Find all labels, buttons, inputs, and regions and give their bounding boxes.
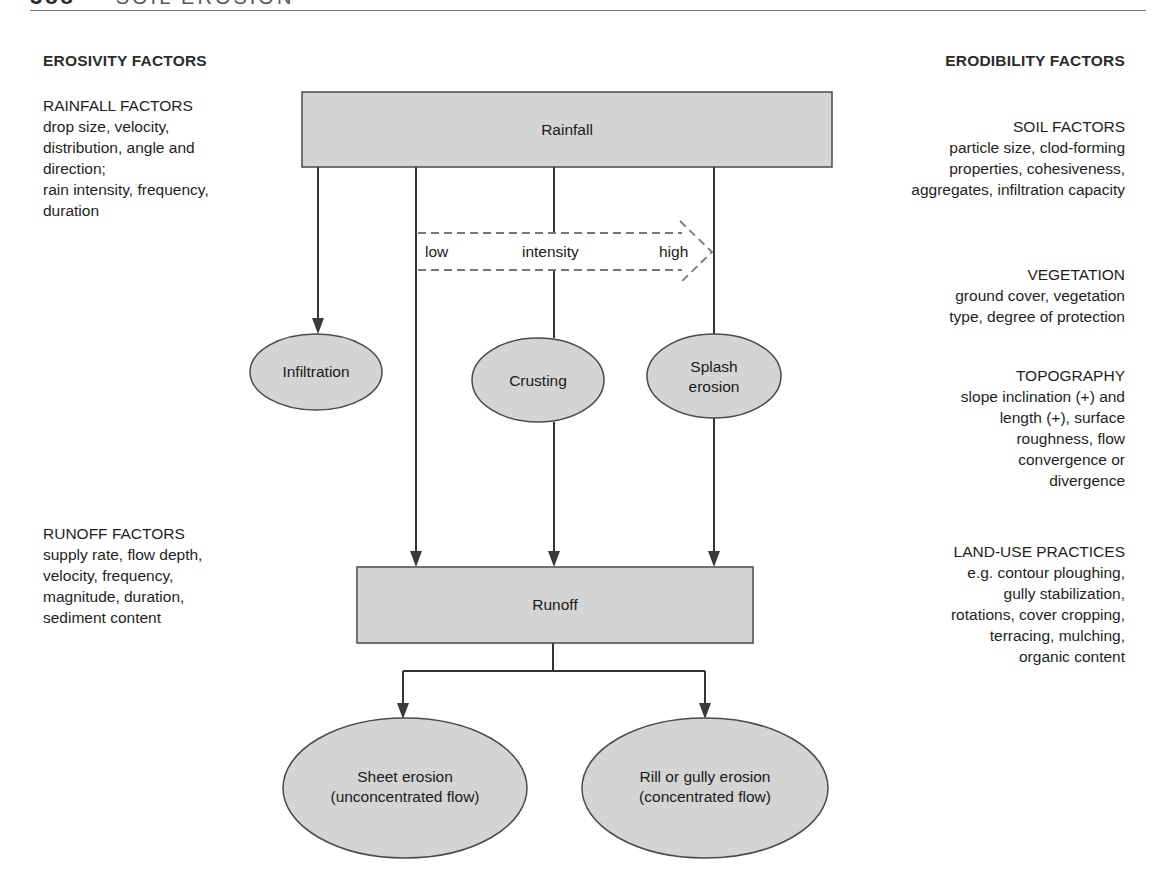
soil-factors-line: aggregates, infiltration capacity xyxy=(911,179,1125,200)
topography-line: roughness, flow xyxy=(961,428,1125,449)
rainfall-factors-line: distribution, angle and xyxy=(43,137,209,158)
erodibility-factors-heading: ERODIBILITY FACTORS xyxy=(945,52,1125,70)
runoff-factors-line: velocity, frequency, xyxy=(43,565,202,586)
land-use-practices-block: LAND-USE PRACTICES e.g. contour ploughin… xyxy=(951,541,1125,667)
arrow-to-sheet-icon xyxy=(397,703,409,719)
topography-block: TOPOGRAPHY slope inclination (+) and len… xyxy=(961,365,1125,491)
runoff-factors-line: sediment content xyxy=(43,607,202,628)
erosivity-factors-heading: EROSIVITY FACTORS xyxy=(43,52,207,70)
land-use-line: organic content xyxy=(951,646,1125,667)
soil-factors-line: particle size, clod-forming xyxy=(911,137,1125,158)
splash-erosion-line-2: erosion xyxy=(689,377,740,397)
land-use-line: rotations, cover cropping, xyxy=(951,604,1125,625)
soil-factors-line: properties, cohesiveness, xyxy=(911,158,1125,179)
vegetation-block: VEGETATION ground cover, vegetation type… xyxy=(949,264,1125,327)
rainfall-factors-line: drop size, velocity, xyxy=(43,116,209,137)
rainfall-factors-line: rain intensity, frequency, xyxy=(43,179,209,200)
intensity-low-label: low xyxy=(425,243,448,261)
intensity-high-label: high xyxy=(659,243,688,261)
soil-factors-title: SOIL FACTORS xyxy=(911,116,1125,137)
infiltration-label: Infiltration xyxy=(282,362,349,382)
topography-line: convergence or xyxy=(961,449,1125,470)
sheet-erosion-label: Sheet erosion (unconcentrated flow) xyxy=(330,767,479,807)
land-use-line: e.g. contour ploughing, xyxy=(951,562,1125,583)
crusting-label: Crusting xyxy=(509,371,567,391)
runoff-factors-line: supply rate, flow depth, xyxy=(43,544,202,565)
topography-line: divergence xyxy=(961,470,1125,491)
land-use-practices-title: LAND-USE PRACTICES xyxy=(951,541,1125,562)
intensity-label: intensity xyxy=(522,243,579,261)
land-use-line: gully stabilization, xyxy=(951,583,1125,604)
arrow-to-runoff-left-icon xyxy=(410,551,422,567)
runoff-factors-block: RUNOFF FACTORS supply rate, flow depth, … xyxy=(43,523,202,628)
splash-erosion-label: Splash erosion xyxy=(689,357,740,397)
land-use-line: terracing, mulching, xyxy=(951,625,1125,646)
splash-erosion-line-1: Splash xyxy=(689,357,740,377)
arrow-to-infiltration-icon xyxy=(312,318,324,334)
arrow-to-runoff-right-icon xyxy=(708,551,720,567)
sheet-erosion-line-2: (unconcentrated flow) xyxy=(330,787,479,807)
rill-gully-line-1: Rill or gully erosion xyxy=(639,767,771,787)
rainfall-factors-line: duration xyxy=(43,200,209,221)
rainfall-factors-line: direction; xyxy=(43,158,209,179)
rill-gully-line-2: (concentrated flow) xyxy=(639,787,771,807)
runoff-label: Runoff xyxy=(532,595,577,615)
topography-line: slope inclination (+) and xyxy=(961,386,1125,407)
arrow-to-rill-icon xyxy=(699,703,711,719)
runoff-factors-line: magnitude, duration, xyxy=(43,586,202,607)
arrow-to-runoff-mid-icon xyxy=(548,551,560,567)
rainfall-factors-title: RAINFALL FACTORS xyxy=(43,95,209,116)
soil-factors-block: SOIL FACTORS particle size, clod-forming… xyxy=(911,116,1125,200)
vegetation-title: VEGETATION xyxy=(949,264,1125,285)
runoff-factors-title: RUNOFF FACTORS xyxy=(43,523,202,544)
rill-gully-erosion-label: Rill or gully erosion (concentrated flow… xyxy=(639,767,771,807)
topography-line: length (+), surface xyxy=(961,407,1125,428)
rainfall-label: Rainfall xyxy=(541,120,593,140)
sheet-erosion-line-1: Sheet erosion xyxy=(330,767,479,787)
topography-title: TOPOGRAPHY xyxy=(961,365,1125,386)
vegetation-line: type, degree of protection xyxy=(949,306,1125,327)
vegetation-line: ground cover, vegetation xyxy=(949,285,1125,306)
rainfall-factors-block: RAINFALL FACTORS drop size, velocity, di… xyxy=(43,95,209,221)
